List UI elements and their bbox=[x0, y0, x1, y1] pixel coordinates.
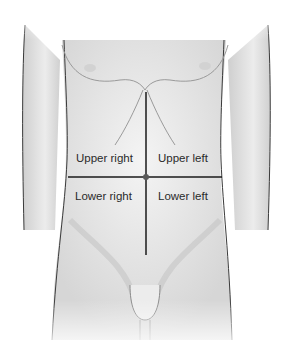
left-nipple bbox=[199, 62, 211, 70]
label-lower-right: Lower right bbox=[75, 190, 132, 202]
umbilicus-marker bbox=[143, 174, 149, 180]
right-arm bbox=[23, 25, 60, 230]
abdominal-quadrants-diagram: Upper right Upper left Lower right Lower… bbox=[0, 0, 285, 353]
label-upper-left: Upper left bbox=[158, 152, 208, 164]
label-lower-left: Lower left bbox=[158, 190, 208, 202]
left-arm bbox=[228, 25, 270, 230]
right-nipple bbox=[84, 64, 96, 72]
torso-illustration bbox=[0, 0, 285, 353]
label-upper-right: Upper right bbox=[76, 152, 133, 164]
